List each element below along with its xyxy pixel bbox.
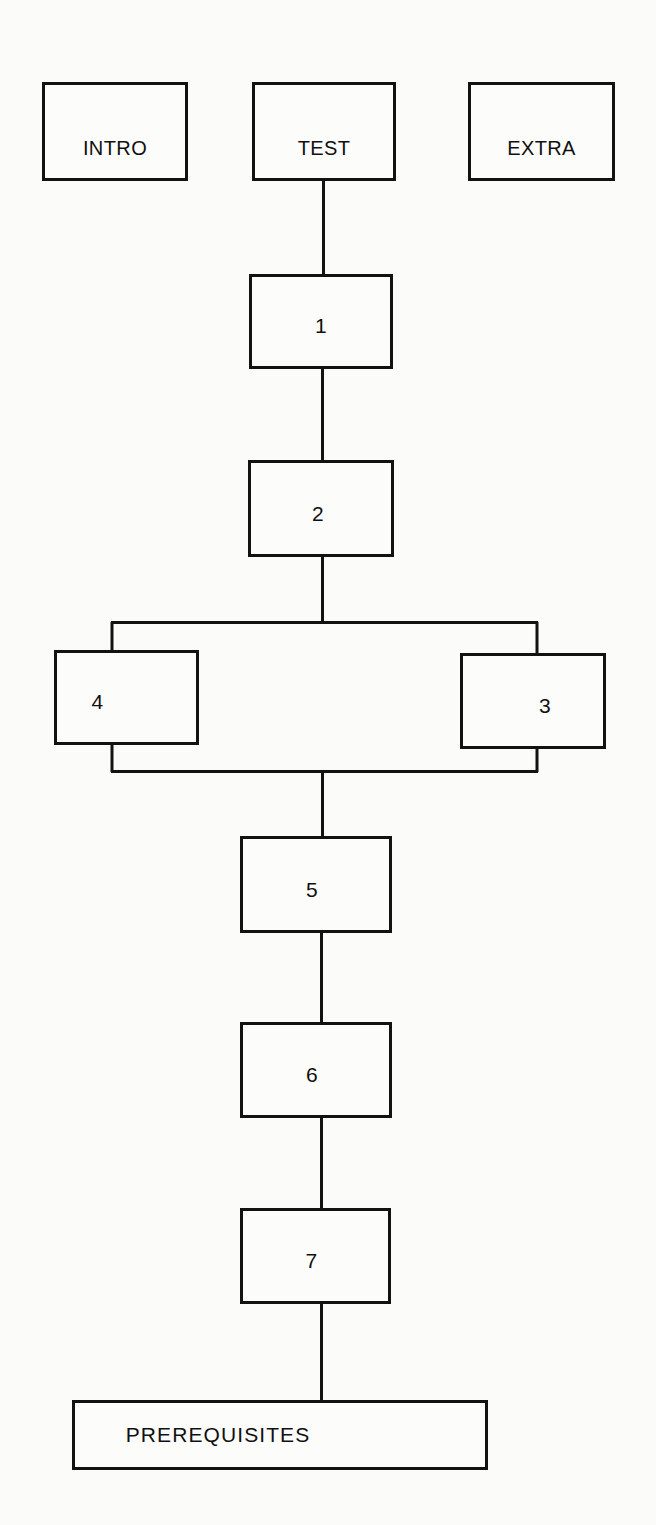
node-test-label: TEST	[298, 137, 351, 178]
node-step-7[interactable]: 7	[240, 1208, 391, 1304]
node-extra-label: EXTRA	[507, 137, 576, 178]
node-step-1-label: 1	[315, 314, 327, 366]
node-step-1[interactable]: 1	[249, 274, 393, 369]
node-step-2-label: 2	[312, 502, 324, 554]
node-step-5[interactable]: 5	[240, 836, 392, 933]
node-step-7-label: 7	[305, 1249, 317, 1301]
node-intro[interactable]: INTRO	[42, 82, 188, 181]
node-prerequisites-label: PREREQUISITES	[126, 1423, 311, 1447]
node-intro-label: INTRO	[83, 137, 147, 178]
node-step-4[interactable]: 4	[54, 650, 199, 745]
node-step-4-label: 4	[91, 690, 103, 742]
node-step-2[interactable]: 2	[248, 460, 394, 557]
node-step-3[interactable]: 3	[460, 653, 606, 749]
node-step-6[interactable]: 6	[240, 1022, 392, 1118]
node-step-5-label: 5	[306, 878, 318, 930]
flowchart-canvas: INTRO TEST EXTRA 1 2 4 3 5 6 7 PREREQUIS…	[0, 0, 656, 1525]
node-step-3-label: 3	[539, 694, 551, 746]
node-extra[interactable]: EXTRA	[468, 82, 615, 181]
node-test[interactable]: TEST	[252, 82, 396, 181]
node-prerequisites[interactable]: PREREQUISITES	[72, 1400, 488, 1470]
node-step-6-label: 6	[306, 1063, 318, 1115]
